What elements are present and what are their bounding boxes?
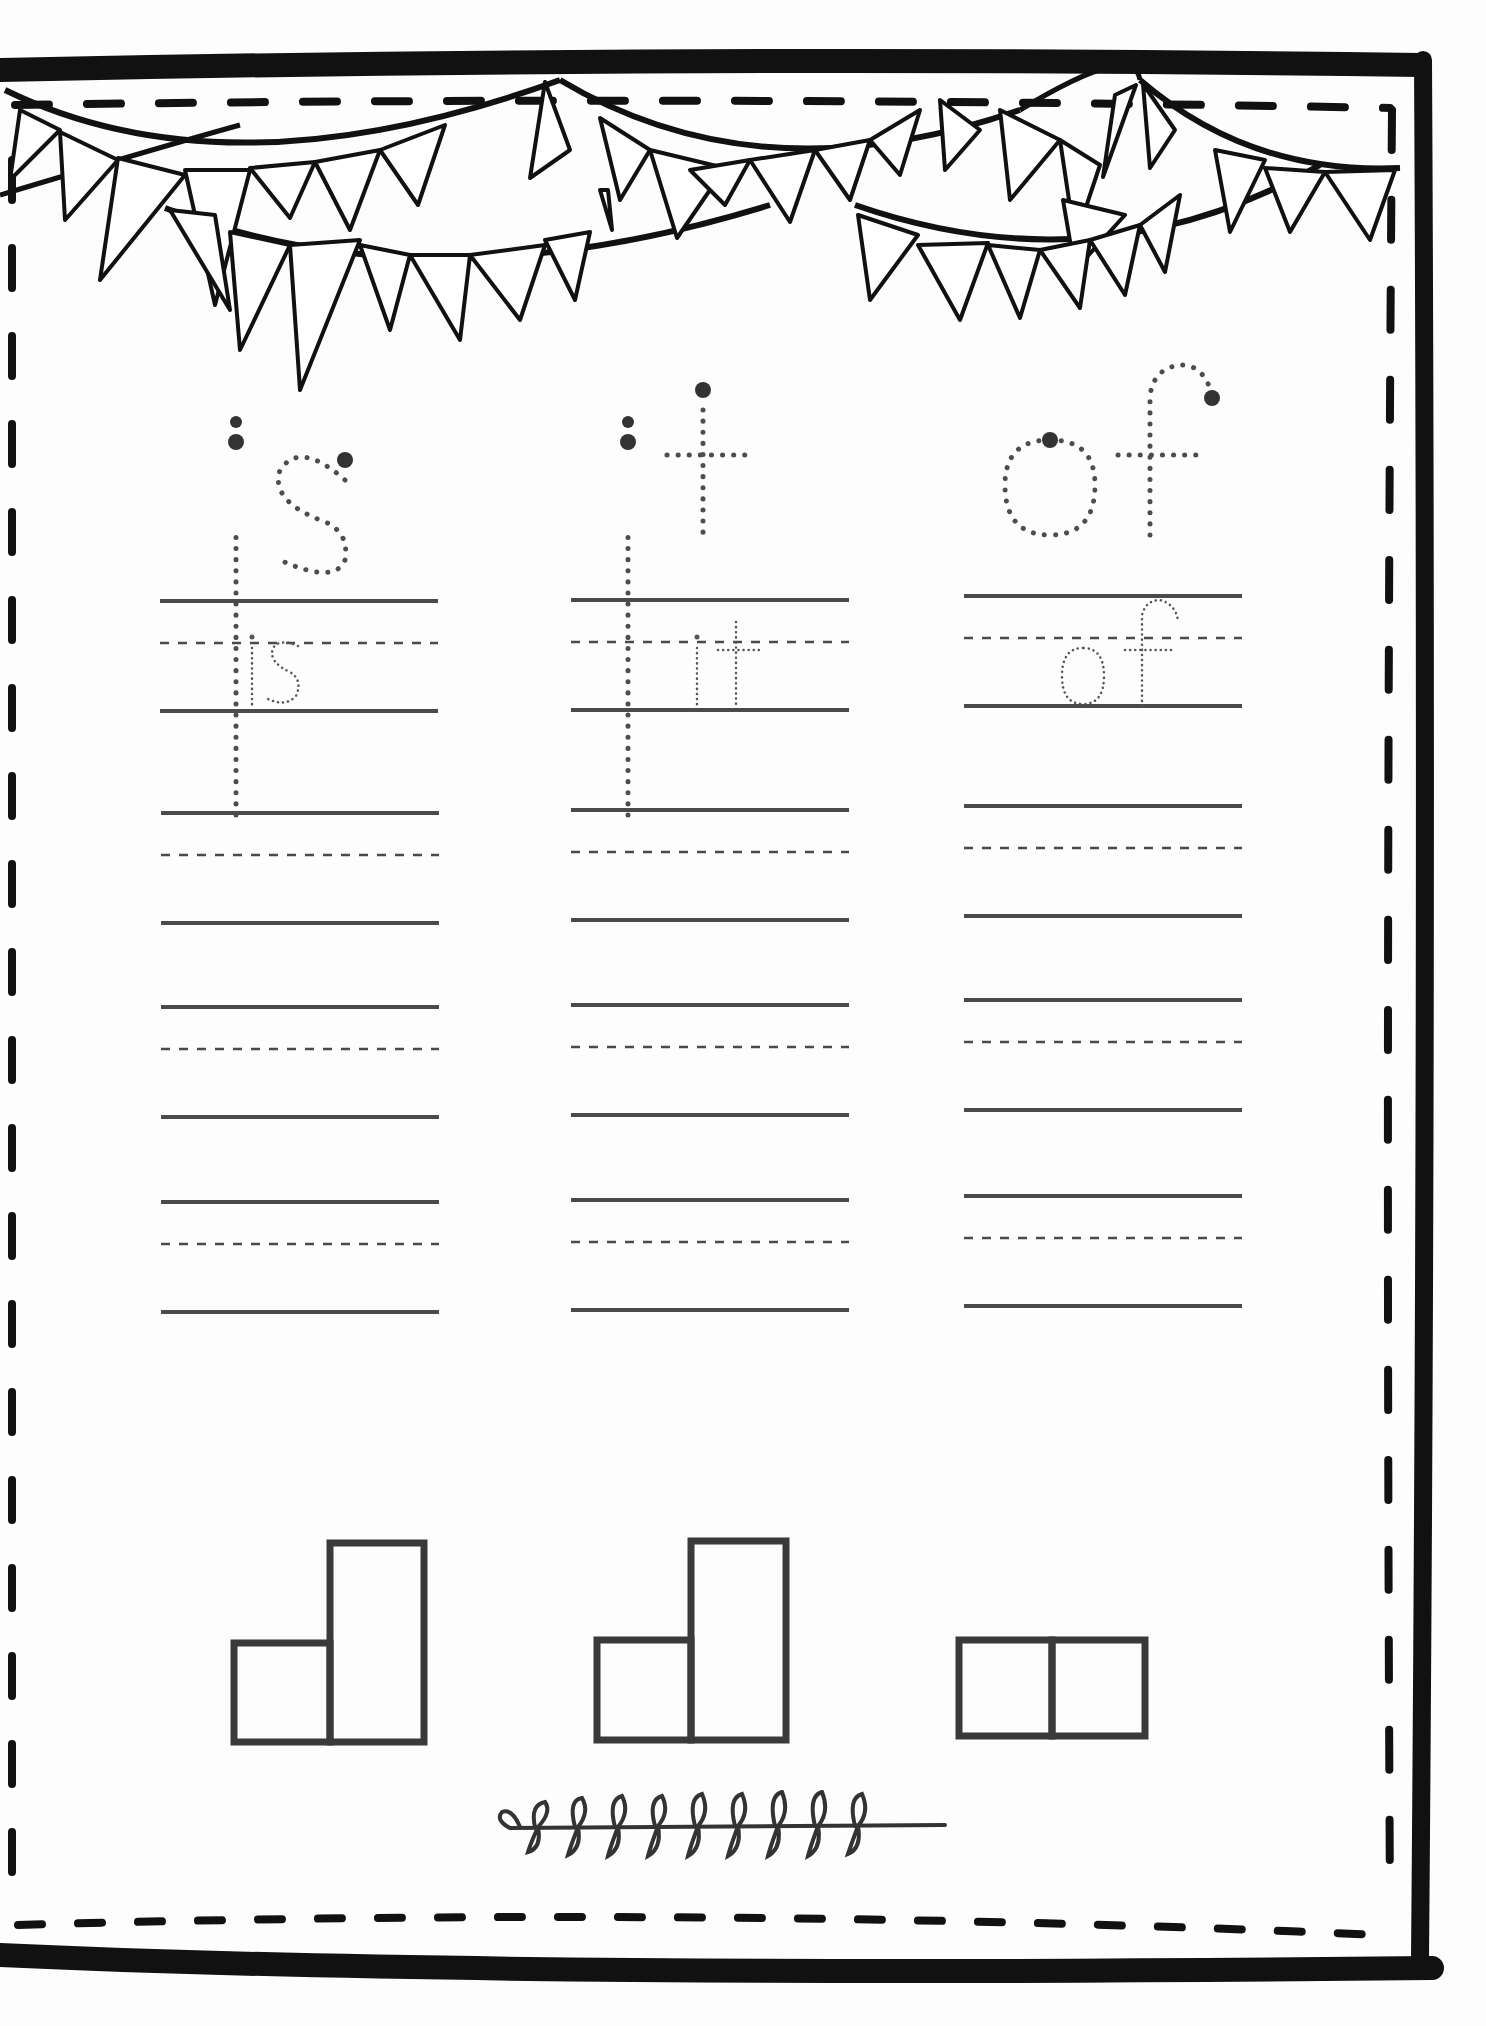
dotted-letter-f (1150, 365, 1212, 535)
word-shape-is (234, 1543, 424, 1742)
bunting-banner (0, 65, 1400, 390)
word-shape-it (597, 1541, 786, 1740)
word-shape-boxes (0, 1520, 1486, 1780)
leaf-sprig-icon (490, 1790, 970, 1870)
word-shape-of (959, 1640, 1145, 1736)
dotted-letter-o (1005, 440, 1095, 535)
dotted-letter-s (278, 457, 345, 572)
handwriting-practice-lines (0, 560, 1486, 1560)
